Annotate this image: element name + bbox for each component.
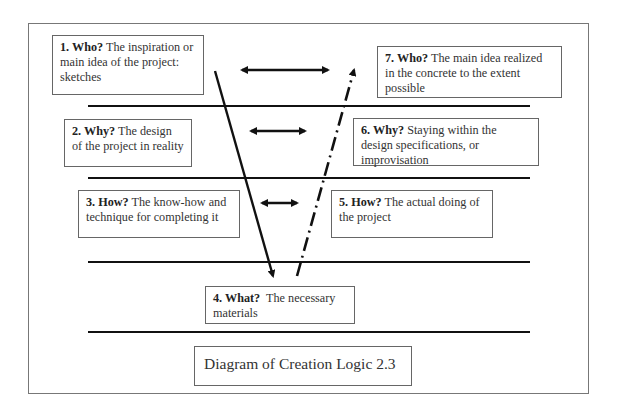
step-1-box: 1. Who? The inspiration or main idea of … — [52, 35, 204, 95]
descending-arrow — [215, 71, 273, 276]
step-6-label: 6. Why? — [361, 123, 404, 137]
step-1-label: 1. Who? — [60, 40, 103, 54]
step-2-box: 2. Why? The design of the project in rea… — [64, 119, 192, 167]
step-5-label: 5. How? — [339, 195, 382, 209]
ascending-arrow — [297, 70, 354, 276]
step-6-box: 6. Why? Staying within the design specif… — [353, 118, 539, 166]
diagram-title: Diagram of Creation Logic 2.3 — [194, 346, 412, 386]
step-3-box: 3. How? The know-how and technique for c… — [78, 190, 240, 238]
step-4-label: 4. What? — [213, 291, 260, 305]
step-7-label: 7. Who? — [385, 51, 428, 65]
step-7-text-box: 7. Who? The main idea realized in the co… — [377, 46, 562, 98]
step-5-box: 5. How? The actual doing of the project — [331, 190, 493, 238]
step-3-label: 3. How? — [86, 195, 129, 209]
step-4-box: 4. What? The necessary materials — [205, 286, 355, 324]
step-2-label: 2. Why? — [72, 124, 115, 138]
